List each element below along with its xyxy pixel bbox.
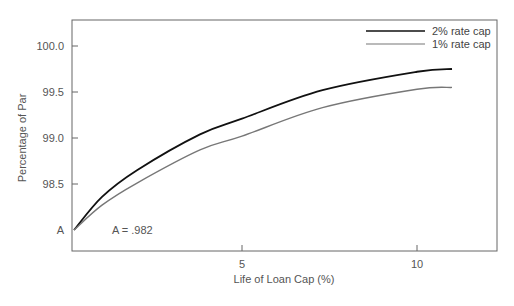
- x-tick-label: 5: [239, 258, 245, 270]
- legend-label: 1% rate cap: [432, 38, 491, 50]
- annotation-a-value: A = .982: [112, 224, 153, 236]
- y-tick-label: 98.5: [43, 178, 64, 190]
- plot-frame: [72, 20, 497, 251]
- y-tick-label: 100.0: [36, 40, 64, 52]
- y-tick-label: A: [57, 224, 65, 236]
- x-axis-title: Life of Loan Cap (%): [234, 273, 335, 285]
- y-tick-label: 99.5: [43, 86, 64, 98]
- legend: 2% rate cap1% rate cap: [366, 25, 491, 50]
- plot-border: [72, 20, 497, 251]
- y-tick-label: 99.0: [43, 132, 64, 144]
- series-line-1pct: [74, 87, 452, 230]
- x-axis: 510: [239, 245, 423, 270]
- curves: [74, 69, 452, 230]
- line-chart: A98.599.099.5100.0 510 Percentage of Par…: [0, 0, 514, 306]
- y-axis-title: Percentage of Par: [16, 93, 28, 182]
- x-tick-label: 10: [411, 258, 423, 270]
- legend-label: 2% rate cap: [432, 25, 491, 37]
